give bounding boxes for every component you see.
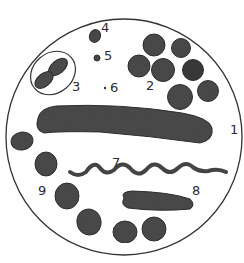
coccus-5	[94, 55, 100, 61]
label-1: 1	[230, 122, 238, 137]
staphylococci-cluster	[128, 34, 219, 110]
label-4: 4	[101, 20, 109, 35]
spirillum-7	[70, 164, 226, 175]
label-2: 2	[146, 78, 154, 93]
label-7: 7	[112, 155, 120, 170]
capsule-diplococcus-3	[22, 42, 84, 103]
bacteria-diagram: 1 2 3 4 5 6 7 8 9	[0, 0, 244, 263]
rod-bacillus-1	[37, 105, 212, 143]
label-8: 8	[192, 183, 200, 198]
label-3: 3	[72, 79, 80, 94]
dot-6	[104, 87, 106, 89]
rod-8	[123, 191, 193, 210]
label-9: 9	[38, 183, 46, 198]
label-6: 6	[110, 80, 118, 95]
label-5: 5	[104, 48, 112, 63]
streptococci-chain	[10, 130, 166, 243]
